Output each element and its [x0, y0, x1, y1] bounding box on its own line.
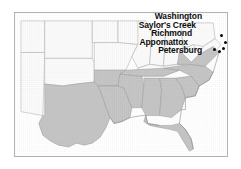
washington-marker: [220, 34, 223, 37]
map-canvas: [15, 13, 227, 156]
saylors-creek-marker: [224, 41, 227, 44]
richmond-marker: [222, 47, 225, 50]
map-frame: [14, 12, 228, 157]
petersburg-marker: [218, 50, 221, 53]
appomattox-marker: [213, 48, 216, 51]
map-figure: Washington Saylor's Creek Richmond Appom…: [0, 0, 241, 169]
map-texture-overlay: [15, 13, 227, 156]
